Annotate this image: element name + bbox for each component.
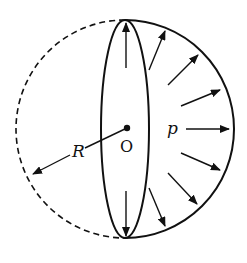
radius-arrow-tail — [33, 155, 70, 174]
center-point — [124, 125, 130, 131]
radius-label: R — [72, 143, 85, 160]
pressure-arrow — [181, 90, 220, 106]
pressure-arrow — [149, 31, 165, 70]
pressure-label: p — [167, 120, 178, 137]
hemisphere-diagram — [0, 0, 247, 263]
pressure-arrow — [168, 55, 198, 85]
pressure-arrow — [168, 173, 197, 204]
center-label: O — [120, 139, 133, 155]
pressure-arrows — [149, 31, 229, 226]
pressure-arrow — [149, 188, 165, 226]
pressure-arrow — [181, 153, 220, 170]
